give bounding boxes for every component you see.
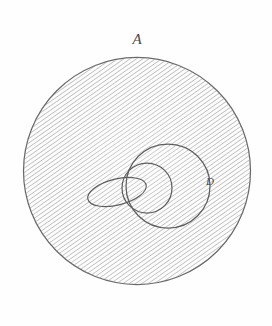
outer-circle-label: A xyxy=(131,31,142,47)
outer-circle-group xyxy=(24,58,251,285)
figure-container: A D xyxy=(0,0,272,326)
paper-shading-overlay xyxy=(24,58,250,284)
figure-drawing: A D xyxy=(0,0,272,326)
inner-loop-label: D xyxy=(205,175,214,187)
